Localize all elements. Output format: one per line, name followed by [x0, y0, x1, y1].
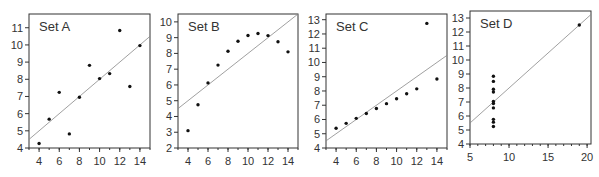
x-tick-label: 14 — [431, 155, 443, 167]
plot-frame — [178, 14, 298, 148]
x-tick-label: 12 — [114, 155, 126, 167]
x-tick-label: 10 — [390, 155, 402, 167]
x-tick-label: 6 — [56, 155, 62, 167]
y-tick-label: 11 — [453, 40, 464, 52]
x-tick-label: 10 — [503, 151, 515, 163]
y-tick-label: 5 — [17, 125, 23, 137]
y-tick-label: 11 — [12, 22, 23, 34]
y-tick-label: 9 — [458, 68, 464, 80]
data-point — [492, 88, 495, 91]
x-tick-label: 12 — [262, 155, 274, 167]
y-tick-label: 5 — [458, 124, 464, 136]
panel-set-a: 4567891011468101214Set A — [0, 0, 150, 177]
panel-set-c: 45678910111213468101214Set C — [300, 0, 450, 177]
plot-frame — [29, 14, 150, 148]
data-point — [415, 87, 418, 90]
y-tick-label: 12 — [452, 26, 464, 38]
x-tick-label: 6 — [205, 155, 211, 167]
y-tick-label: 8 — [458, 82, 464, 94]
y-tick-label: 5 — [166, 95, 172, 107]
y-tick-label: 3 — [166, 126, 172, 138]
y-tick-label: 6 — [17, 108, 23, 120]
x-tick-label: 4 — [185, 155, 191, 167]
x-tick-label: 14 — [134, 155, 146, 167]
set-label: Set B — [188, 19, 220, 34]
data-point — [226, 50, 229, 53]
y-tick-label: 9 — [314, 71, 320, 83]
x-tick-label: 10 — [93, 155, 105, 167]
y-tick-label: 4 — [17, 142, 23, 154]
x-tick-label: 20 — [581, 151, 593, 163]
y-tick-label: 9 — [166, 32, 172, 44]
x-tick-label: 4 — [36, 155, 42, 167]
y-tick-label: 13 — [308, 14, 320, 26]
data-point — [492, 102, 495, 105]
data-point — [492, 80, 495, 83]
x-tick-label: 14 — [282, 155, 294, 167]
x-tick-label: 5 — [467, 151, 473, 163]
x-tick-label: 6 — [353, 155, 359, 167]
data-point — [88, 64, 91, 67]
data-point — [492, 75, 495, 78]
set-label: Set C — [336, 19, 369, 34]
x-tick-label: 8 — [225, 155, 231, 167]
regression-line — [326, 55, 447, 141]
y-tick-label: 11 — [309, 42, 320, 54]
x-tick-label: 12 — [411, 155, 423, 167]
x-tick-label: 8 — [373, 155, 379, 167]
y-tick-label: 2 — [166, 142, 172, 154]
y-tick-label: 8 — [314, 85, 320, 97]
scatter-plot-set-d: 456789101112135101520Set D — [450, 0, 599, 177]
y-tick-label: 7 — [166, 63, 172, 75]
y-tick-label: 10 — [452, 54, 464, 66]
data-point — [246, 34, 249, 37]
y-tick-label: 12 — [308, 28, 320, 40]
y-tick-label: 10 — [11, 39, 23, 51]
data-point — [128, 85, 131, 88]
data-point — [578, 23, 581, 26]
data-point — [266, 34, 269, 37]
regression-line — [29, 36, 150, 139]
y-tick-label: 8 — [17, 73, 23, 85]
y-tick-label: 9 — [17, 56, 23, 68]
y-tick-label: 7 — [17, 90, 23, 102]
x-tick-label: 10 — [242, 155, 254, 167]
data-point — [47, 117, 50, 120]
y-tick-label: 10 — [160, 16, 172, 28]
data-point — [108, 72, 111, 75]
y-tick-label: 4 — [314, 142, 320, 154]
x-tick-label: 15 — [542, 151, 554, 163]
data-point — [186, 129, 189, 132]
data-point — [118, 29, 121, 32]
data-point — [385, 102, 388, 105]
data-point — [405, 92, 408, 95]
y-tick-label: 7 — [458, 96, 464, 108]
scatter-plot-set-a: 4567891011468101214Set A — [0, 0, 150, 177]
y-tick-label: 6 — [166, 79, 172, 91]
data-point — [435, 77, 438, 80]
data-point — [286, 50, 289, 53]
data-point — [492, 125, 495, 128]
data-point — [395, 97, 398, 100]
data-point — [68, 132, 71, 135]
scatter-plot-set-c: 45678910111213468101214Set C — [300, 0, 450, 177]
data-point — [492, 106, 495, 109]
x-tick-label: 4 — [333, 155, 339, 167]
y-tick-label: 4 — [166, 110, 172, 122]
set-label: Set A — [39, 19, 70, 34]
scatter-plot-set-b: 2345678910468101214Set B — [150, 0, 300, 177]
data-point — [256, 32, 259, 35]
panel-set-d: 456789101112135101520Set D — [450, 0, 599, 177]
y-tick-label: 5 — [314, 128, 320, 140]
y-tick-label: 6 — [314, 113, 320, 125]
y-tick-label: 8 — [166, 47, 172, 59]
data-point — [365, 112, 368, 115]
data-point — [425, 22, 428, 25]
data-point — [78, 96, 81, 99]
data-point — [334, 126, 337, 129]
data-point — [236, 40, 239, 43]
data-point — [37, 142, 40, 145]
data-point — [98, 77, 101, 80]
data-point — [344, 122, 347, 125]
y-tick-label: 4 — [458, 138, 464, 150]
